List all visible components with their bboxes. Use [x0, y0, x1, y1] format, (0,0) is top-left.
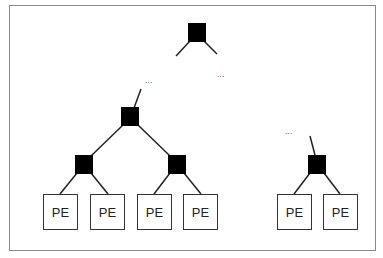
switch-node-mid-left: [121, 107, 139, 126]
pe-box-1: PE: [43, 194, 78, 230]
pe-box-2: PE: [90, 194, 125, 230]
edge-mid-up: [134, 89, 141, 108]
switch-node-root: [188, 23, 206, 42]
pe-box-6: PE: [323, 194, 358, 230]
edge-root-right: [204, 41, 217, 54]
edge-sub-c-up: [310, 136, 315, 155]
pe-box-5: PE: [277, 194, 312, 230]
switch-node-sub-c: [308, 155, 326, 174]
switch-node-sub-a: [75, 155, 93, 174]
edge-sub-a-left: [60, 173, 77, 194]
edge-mid-right: [138, 125, 170, 156]
edge-sub-a-right: [91, 173, 108, 194]
pe-box-3: PE: [137, 194, 172, 230]
edge-sub-b-right: [184, 173, 201, 194]
edge-sub-c-left: [294, 173, 310, 194]
switch-node-sub-b: [168, 155, 186, 174]
ellipsis-far-right: ...: [285, 127, 293, 136]
ellipsis-mid: ...: [145, 76, 153, 85]
edge-root-left: [176, 41, 190, 56]
edge-sub-b-left: [154, 173, 170, 194]
ellipsis-right: ...: [217, 70, 225, 79]
pe-box-4: PE: [183, 194, 218, 230]
edge-mid-left: [91, 125, 123, 156]
edge-sub-c-right: [324, 173, 340, 194]
